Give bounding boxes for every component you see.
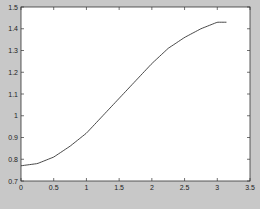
x-tick-label: 3.5 xyxy=(245,184,255,191)
line-chart: 00.511.522.533.5 0.70.80.911.11.21.31.41… xyxy=(0,0,260,209)
y-tick-label: 1.4 xyxy=(8,25,18,32)
x-tick-label: 3 xyxy=(215,184,219,191)
y-tick-label: 1.3 xyxy=(8,47,18,54)
y-tick-label: 0.8 xyxy=(8,156,18,163)
y-tick-label: 1.1 xyxy=(8,91,18,98)
y-tick-label: 0.9 xyxy=(8,134,18,141)
plot-area xyxy=(21,7,250,181)
y-tick-label: 1.2 xyxy=(8,69,18,76)
x-tick-label: 1 xyxy=(84,184,88,191)
y-tick-label: 1.5 xyxy=(8,4,18,11)
x-tick-label: 2.5 xyxy=(180,184,190,191)
x-tick-label: 1.5 xyxy=(114,184,124,191)
x-tick-label: 2 xyxy=(150,184,154,191)
y-tick-label: 0.7 xyxy=(8,178,18,185)
x-tick-label: 0 xyxy=(19,184,23,191)
x-tick-label: 0.5 xyxy=(49,184,59,191)
y-tick-label: 1 xyxy=(14,112,18,119)
